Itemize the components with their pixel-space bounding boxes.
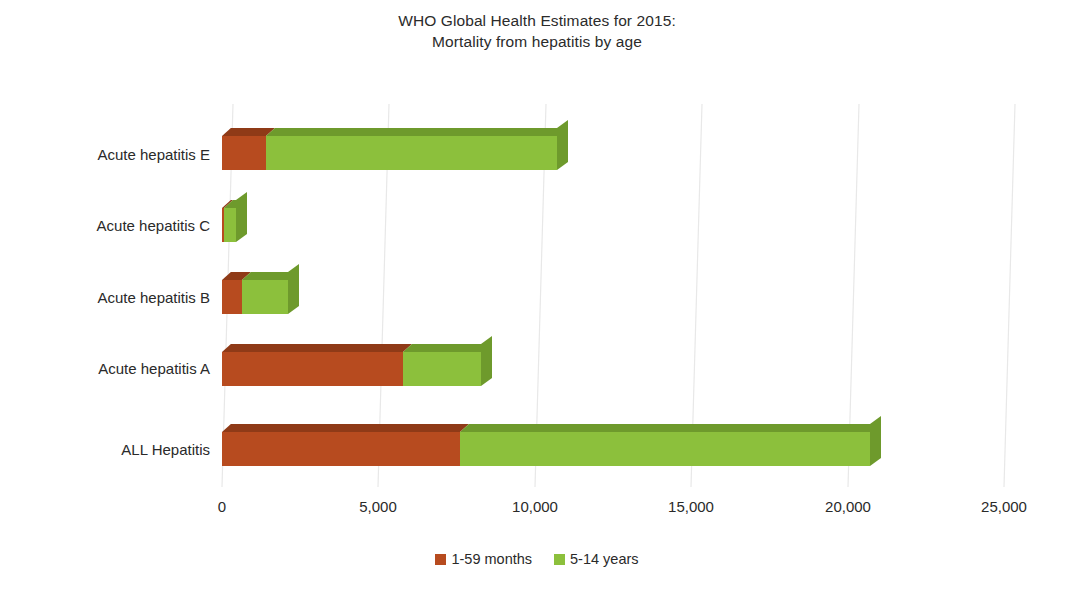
x-axis-tick-10000: 10,000 (512, 498, 558, 515)
y-axis-label-acute-hepatitis-c: Acute hepatitis C (10, 217, 210, 234)
y-axis-label-acute-hepatitis-b: Acute hepatitis B (10, 289, 210, 306)
bar-bevel-top (266, 128, 566, 136)
legend-item-5-14-years[interactable]: 5-14 years (554, 551, 639, 567)
bar-segment-1-59-months[interactable] (222, 352, 403, 386)
bar-bevel-side (236, 192, 247, 242)
y-axis-label-acute-hepatitis-e: Acute hepatitis E (10, 146, 210, 163)
bar-face (403, 352, 481, 386)
chart-plot-area: Acute hepatitis E Acute hepatitis C Acut… (0, 0, 1074, 599)
bar-face (222, 352, 403, 386)
legend-label: 5-14 years (570, 551, 639, 567)
bar-segment-5-14-years[interactable] (460, 432, 870, 466)
bar-segment-5-14-years[interactable] (403, 352, 481, 386)
bar-bevel-top (222, 344, 412, 352)
y-axis-label-acute-hepatitis-a: Acute hepatitis A (10, 360, 210, 377)
bar-segment-1-59-months[interactable] (222, 432, 460, 466)
bar-bevel-top (460, 424, 879, 432)
x-axis-tick-25000: 25,000 (981, 498, 1027, 515)
bar-face (460, 432, 870, 466)
bar-face (242, 280, 288, 314)
bar-face (222, 280, 242, 314)
legend-item-1-59-months[interactable]: 1-59 months (435, 551, 532, 567)
legend-label: 1-59 months (451, 551, 532, 567)
bar-bevel-side (481, 336, 492, 386)
bar-face (222, 432, 460, 466)
bar-face (224, 208, 236, 242)
y-axis-label-all-hepatitis: ALL Hepatitis (10, 441, 210, 458)
bar-segment-1-59-months[interactable] (222, 280, 242, 314)
legend-swatch-icon (554, 554, 565, 565)
bar-bevel-top (403, 344, 490, 352)
bar-segment-5-14-years[interactable] (224, 208, 236, 242)
x-axis-tick-20000: 20,000 (825, 498, 871, 515)
legend-swatch-icon (435, 554, 446, 565)
chart-legend: 1-59 months 5-14 years (0, 551, 1074, 567)
bar-segment-5-14-years[interactable] (242, 280, 288, 314)
x-axis-tick-5000: 5,000 (359, 498, 397, 515)
bar-bevel-top (222, 424, 469, 432)
x-axis-tick-0: 0 (218, 498, 226, 515)
bar-face (222, 136, 266, 170)
bar-bevel-side (557, 120, 568, 170)
bar-bevel-side (870, 416, 881, 466)
bar-segment-5-14-years[interactable] (266, 136, 557, 170)
bar-face (266, 136, 557, 170)
x-axis-tick-15000: 15,000 (668, 498, 714, 515)
bar-bevel-side (288, 264, 299, 314)
bar-segment-1-59-months[interactable] (222, 136, 266, 170)
